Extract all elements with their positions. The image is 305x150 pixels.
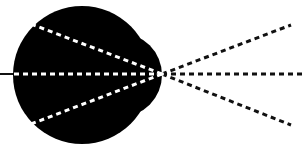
- ray-lower: [162, 74, 291, 125]
- focal-point: [160, 72, 164, 76]
- eye-ray-diagram: [0, 0, 305, 150]
- ray-upper: [162, 25, 291, 74]
- diverging-rays: [162, 25, 305, 125]
